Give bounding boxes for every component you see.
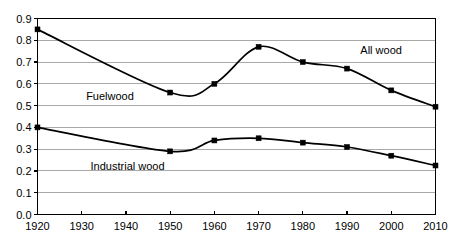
- y-tick-label-2: 0.2: [16, 165, 31, 177]
- x-tick-label-7: 1990: [335, 220, 359, 232]
- y-tick-label-1: 0.1: [16, 187, 31, 199]
- data-point-all-wood-1970: [256, 44, 261, 49]
- series-label-fuelwood: Fuelwood: [86, 90, 134, 102]
- x-axis-tick-labels: 1920193019401950196019701980199020002010: [25, 220, 447, 232]
- x-tick-label-6: 1980: [291, 220, 315, 232]
- data-point-all-wood-2000: [389, 88, 394, 93]
- data-point-industrial-wood-1960: [212, 138, 217, 143]
- y-tick-label-5: 0.5: [16, 100, 31, 112]
- x-tick-label-5: 1970: [246, 220, 270, 232]
- x-tick-label-1: 1930: [69, 220, 93, 232]
- y-tick-label-4: 0.4: [16, 121, 31, 133]
- x-tick-label-9: 2010: [423, 220, 447, 232]
- series-label-industrial-wood: Industrial wood: [91, 160, 165, 172]
- line-chart: 0.00.10.20.30.40.50.60.70.80.9 192019301…: [0, 0, 458, 249]
- chart-container: 0.00.10.20.30.40.50.60.70.80.9 192019301…: [0, 0, 458, 249]
- y-tick-label-7: 0.7: [16, 56, 31, 68]
- data-point-all-wood-1980: [300, 60, 305, 65]
- x-tick-label-8: 2000: [379, 220, 403, 232]
- x-tick-label-2: 1940: [114, 220, 138, 232]
- y-tick-label-6: 0.6: [16, 78, 31, 90]
- y-tick-label-8: 0.8: [16, 34, 31, 46]
- data-point-industrial-wood-1970: [256, 136, 261, 141]
- data-point-industrial-wood-1990: [345, 144, 350, 149]
- data-point-all-wood-1950: [168, 90, 173, 95]
- x-tick-label-4: 1960: [202, 220, 226, 232]
- y-axis-tick-labels: 0.00.10.20.30.40.50.60.70.80.9: [16, 13, 37, 221]
- y-tick-label-9: 0.9: [16, 13, 31, 25]
- data-point-industrial-wood-1980: [300, 140, 305, 145]
- data-point-industrial-wood-2000: [389, 153, 394, 158]
- data-point-all-wood-2010: [433, 104, 438, 109]
- data-point-all-wood-1990: [345, 66, 350, 71]
- series-label-all-wood: All wood: [360, 44, 402, 56]
- data-point-industrial-wood-1950: [168, 149, 173, 154]
- data-point-all-wood-1920: [35, 27, 40, 32]
- data-point-industrial-wood-1920: [35, 125, 40, 130]
- data-point-all-wood-1960: [212, 81, 217, 86]
- series-annotations: All woodFuelwoodIndustrial wood: [86, 44, 402, 171]
- x-tick-label-3: 1950: [158, 220, 182, 232]
- y-tick-label-3: 0.3: [16, 143, 31, 155]
- x-tick-label-0: 1920: [25, 220, 49, 232]
- data-point-industrial-wood-2010: [433, 163, 438, 168]
